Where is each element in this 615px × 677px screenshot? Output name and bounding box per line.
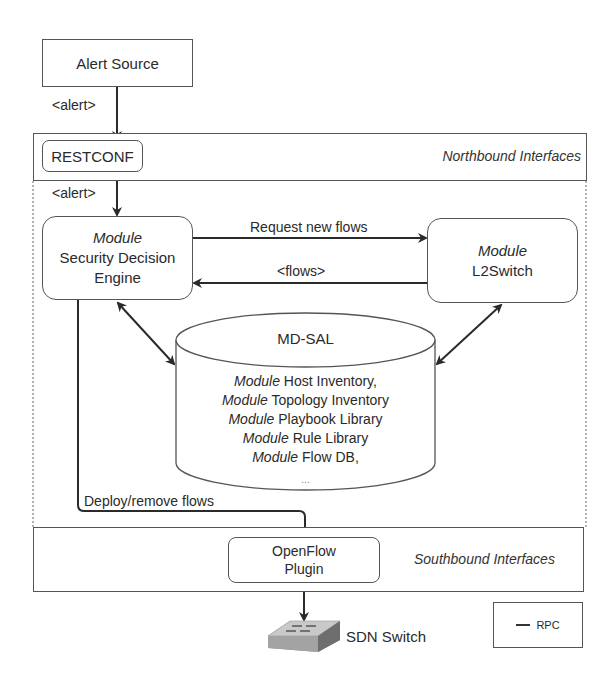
mdsal-module-item: Module Rule Library	[176, 429, 435, 448]
openflow-line2: Plugin	[285, 560, 324, 578]
openflow-plugin-box: OpenFlow Plugin	[228, 537, 380, 583]
deploy-flows-label: Deploy/remove flows	[84, 493, 214, 509]
l2switch-mdsal-arrow	[437, 305, 501, 364]
l2switch-box: Module L2Switch	[427, 218, 578, 303]
sdn-switch-label: SDN Switch	[346, 629, 426, 645]
engine-line1: Security Decision	[60, 248, 176, 268]
restconf-box: RESTCONF	[42, 140, 143, 172]
mdsal-module-list: Module Host Inventory, Module Topology I…	[176, 372, 435, 467]
rpc-line-icon	[516, 624, 530, 626]
openflow-line1: OpenFlow	[272, 542, 336, 560]
alert-source-label: Alert Source	[76, 55, 159, 72]
northbound-title: Northbound Interfaces	[442, 148, 581, 164]
engine-module-prefix: Module	[93, 228, 142, 248]
restconf-label: RESTCONF	[51, 148, 134, 165]
l2switch-module-prefix: Module	[478, 241, 527, 261]
mdsal-module-item: Module Topology Inventory	[176, 391, 435, 410]
mdsal-ellipsis: ...	[176, 475, 435, 485]
security-decision-engine-box: Module Security Decision Engine	[42, 216, 193, 300]
legend-rpc-label: RPC	[536, 619, 559, 631]
alert-source-box: Alert Source	[42, 39, 193, 87]
alert-edge-label-1: <alert>	[52, 97, 96, 113]
southbound-title: Southbound Interfaces	[414, 551, 555, 567]
flows-label: <flows>	[277, 263, 325, 279]
mdsal-title: MD-SAL	[176, 329, 435, 348]
mdsal-module-item: Module Flow DB,	[176, 448, 435, 467]
legend-box: RPC	[493, 602, 583, 648]
network-switch-icon	[268, 621, 340, 652]
alert-edge-label-2: <alert>	[52, 185, 96, 201]
request-flows-label: Request new flows	[250, 219, 368, 235]
engine-line2: Engine	[94, 268, 141, 288]
l2switch-name: L2Switch	[472, 261, 533, 281]
mdsal-module-item: Module Host Inventory,	[176, 372, 435, 391]
mdsal-module-item: Module Playbook Library	[176, 410, 435, 429]
engine-mdsal-arrow	[118, 303, 174, 364]
